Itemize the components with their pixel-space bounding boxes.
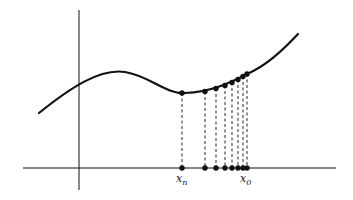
curve-point	[213, 86, 218, 91]
label-xn-sub: n	[182, 178, 187, 187]
label-x0-sub: 0	[246, 178, 251, 187]
function-curve	[39, 34, 298, 113]
axis-point	[222, 165, 227, 170]
axis-point	[235, 165, 240, 170]
axis-point	[229, 165, 234, 170]
axis-point	[213, 165, 218, 170]
curve-point	[229, 80, 234, 85]
diagram-canvas: xn x0	[0, 0, 353, 200]
axis-point	[179, 165, 184, 170]
curve-point	[202, 89, 207, 94]
curve-point	[235, 77, 240, 82]
curve-point	[179, 90, 184, 95]
axis-point	[202, 165, 207, 170]
curve-point	[222, 83, 227, 88]
label-x0: x0	[240, 172, 251, 187]
curve-point	[244, 71, 249, 76]
axis-point	[244, 165, 249, 170]
diagram-svg: xn x0	[0, 0, 353, 200]
label-xn: xn	[176, 172, 187, 187]
